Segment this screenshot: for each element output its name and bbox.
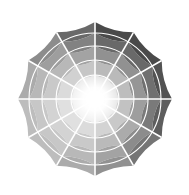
color-wheel-chart <box>0 0 189 195</box>
center-glow <box>69 73 121 125</box>
color-wheel-figure <box>0 0 189 195</box>
